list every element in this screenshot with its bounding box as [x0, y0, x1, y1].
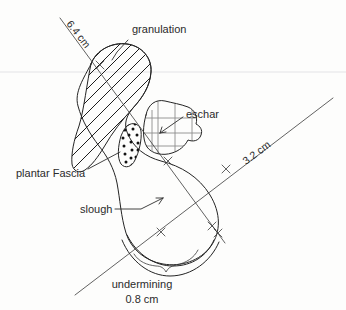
length-measure-label: 6.4 cm	[64, 18, 93, 50]
granulation-region	[60, 30, 180, 190]
undermining-label: undermining	[112, 278, 173, 290]
width-measure-line	[75, 98, 333, 295]
eschar-region	[140, 96, 208, 162]
eschar-leader	[160, 117, 183, 133]
width-measure-label: 3.2 cm	[240, 138, 273, 167]
diagram-canvas: granulation eschar plantar Fascia slough…	[0, 0, 346, 310]
plantar-fascia-leader	[88, 152, 120, 169]
wound-outline	[77, 44, 218, 265]
eschar-label: eschar	[186, 108, 219, 120]
wound-diagram-page: granulation eschar plantar Fascia slough…	[0, 0, 346, 310]
undermining-value-label: 0.8 cm	[125, 293, 158, 305]
granulation-label: granulation	[132, 23, 186, 35]
slough-leader	[115, 198, 163, 209]
plantar-fascia-label: plantar Fascia	[16, 167, 86, 179]
slough-label: slough	[80, 203, 112, 215]
plantar-fascia-region	[118, 123, 141, 167]
undermining-brace	[134, 250, 198, 272]
undermining-region	[122, 235, 219, 276]
